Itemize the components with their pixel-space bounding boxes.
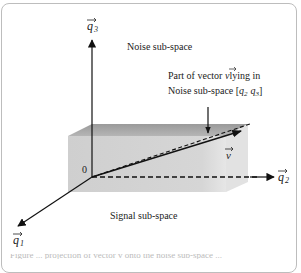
svg-text:Part of vector vlying in: Part of vector vlying in — [168, 70, 260, 81]
noise-subspace-label: Noise sub-space — [127, 41, 193, 52]
svg-text:2: 2 — [285, 176, 289, 185]
label-q3: q 3 — [87, 18, 98, 34]
svg-text:1: 1 — [20, 239, 24, 248]
origin-label: 0 — [82, 164, 87, 175]
axis-q1 — [18, 177, 92, 226]
signal-subspace-label: Signal sub-space — [110, 210, 178, 221]
svg-text:Noise sub-space [q2q3]: Noise sub-space [q2q3] — [168, 85, 262, 98]
label-q2: q 2 — [278, 169, 289, 185]
noise-subspace-box — [68, 124, 248, 192]
svg-text:3: 3 — [93, 25, 98, 34]
svg-text:q: q — [13, 233, 19, 247]
box-top-face — [68, 124, 248, 136]
label-q1: q 1 — [13, 232, 24, 248]
svg-text:v: v — [226, 149, 231, 161]
svg-text:q: q — [278, 170, 284, 184]
svg-text:q: q — [87, 19, 93, 33]
annotation-text: Part of vector vlying in Noise sub-space… — [168, 67, 262, 98]
caption-cutoff: Figure ... projection of vector v onto t… — [10, 254, 290, 259]
